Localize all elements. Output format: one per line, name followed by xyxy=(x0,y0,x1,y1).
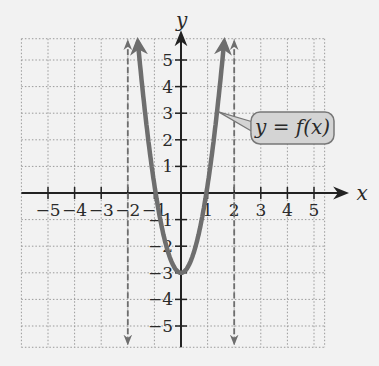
axes: xy xyxy=(21,8,367,348)
callout-label: y = f(x) xyxy=(254,115,330,139)
y-tick-label: 4 xyxy=(162,77,173,97)
chart-container: xy −5−4−3−2−112345−5−4−3−2−112345 y = f(… xyxy=(0,0,379,366)
y-tick-label: −4 xyxy=(148,289,173,309)
y-tick-label: 5 xyxy=(162,50,173,70)
x-tick-label: 4 xyxy=(282,200,293,220)
y-tick-label: 3 xyxy=(162,103,173,123)
y-axis-label: y xyxy=(175,8,188,32)
y-tick-label: 1 xyxy=(162,156,173,176)
y-tick-label: −3 xyxy=(148,263,173,283)
y-tick-label: −5 xyxy=(148,316,173,336)
callout-pointer xyxy=(219,112,253,132)
x-axis-label: x xyxy=(357,181,368,205)
x-tick-label: −3 xyxy=(89,200,114,220)
x-tick-label: −4 xyxy=(62,200,87,220)
x-tick-label: −5 xyxy=(35,200,60,220)
x-tick-label: 3 xyxy=(255,200,266,220)
function-callout: y = f(x) xyxy=(219,112,334,144)
x-tick-label: 5 xyxy=(309,200,320,220)
function-graph: xy −5−4−3−2−112345−5−4−3−2−112345 y = f(… xyxy=(0,0,379,366)
y-tick-label: 2 xyxy=(162,130,173,150)
